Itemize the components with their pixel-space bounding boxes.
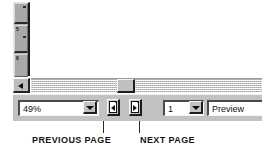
vertical-scrollbar-segment[interactable]: 6 xyxy=(14,54,28,77)
chevron-down-icon xyxy=(192,106,200,110)
status-field[interactable]: Preview xyxy=(207,100,262,116)
vertical-scrollbar-segment[interactable] xyxy=(14,3,28,24)
horizontal-scrollbar-track[interactable] xyxy=(31,78,262,93)
zoom-dropdown-button[interactable] xyxy=(83,101,97,114)
preview-toolbar: 49% 1 Preview xyxy=(13,94,262,121)
vertical-scrollbar-page-marker: 5 xyxy=(16,27,19,32)
vertical-scrollbar[interactable]: 5 6 xyxy=(13,2,30,76)
scroll-tick-icon xyxy=(23,36,26,38)
scroll-tick-icon xyxy=(23,6,26,8)
page-previous-icon xyxy=(109,101,117,113)
zoom-value: 49% xyxy=(23,103,41,116)
vertical-scrollbar-page-marker: 6 xyxy=(16,56,19,61)
callout-next-page: NEXT PAGE xyxy=(140,135,195,146)
print-preview-figure: 5 6 49% xyxy=(0,0,262,151)
page-number-dropdown-button[interactable] xyxy=(189,101,203,114)
page-next-icon xyxy=(131,101,139,113)
previous-page-button[interactable] xyxy=(107,99,120,116)
callout-leader-line xyxy=(139,121,140,133)
horizontal-scrollbar-thumb[interactable] xyxy=(117,79,135,93)
callout-leader-line xyxy=(103,121,104,133)
next-page-button[interactable] xyxy=(129,99,142,116)
triangle-right-icon xyxy=(133,105,137,111)
triangle-left-icon xyxy=(111,105,115,111)
page-dogear-icon xyxy=(114,101,117,104)
page-number-value: 1 xyxy=(168,103,173,116)
vertical-scrollbar-segment[interactable]: 5 xyxy=(14,25,28,53)
scroll-left-button[interactable] xyxy=(13,78,30,93)
status-field-value: Preview xyxy=(212,103,244,116)
triangle-left-icon xyxy=(18,83,23,89)
callout-previous-page: PREVIOUS PAGE xyxy=(32,135,111,146)
chevron-down-icon xyxy=(86,106,94,110)
page-dogear-icon xyxy=(136,101,139,104)
